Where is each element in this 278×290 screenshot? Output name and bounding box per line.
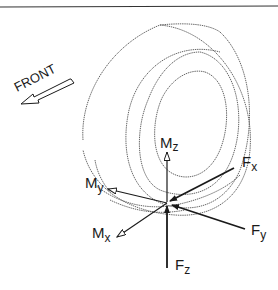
label-fz: Fz [175, 256, 190, 277]
front-indicator: FRONT [12, 61, 74, 104]
top-border-line [0, 6, 278, 7]
label-fx: Fx [242, 153, 257, 174]
label-mx: Mx [92, 224, 111, 245]
tire-middle-ring [126, 32, 250, 208]
tire-outer-back-edge [83, 24, 220, 140]
my-arrow [108, 189, 167, 203]
tire-inner-rim [155, 71, 227, 177]
vector-arrows [108, 152, 245, 268]
label-fy: Fy [251, 221, 266, 242]
fx-arrow [170, 168, 234, 201]
fy-arrow [172, 205, 245, 229]
mx-arrow [117, 203, 167, 237]
tire-axis-diagram: FRONT Mz Fx Fy Fz My Mx [0, 0, 278, 290]
label-mz: Mz [160, 134, 179, 154]
